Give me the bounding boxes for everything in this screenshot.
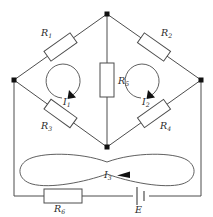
- resistor-r3: [44, 99, 77, 127]
- resistor-r6-body: [44, 189, 82, 203]
- node-top: [105, 12, 110, 17]
- label-r5: R5: [117, 75, 129, 87]
- label-i3: I3: [103, 169, 112, 181]
- node-left: [12, 78, 17, 83]
- i1-loop-arc: [46, 64, 80, 98]
- i1-arrow-head: [68, 90, 77, 99]
- i2-loop-arc: [125, 64, 159, 98]
- resistor-r5-body: [100, 63, 114, 97]
- source-wire-gap: [133, 191, 149, 201]
- mesh-current-loop-i1: [46, 64, 80, 99]
- label-r1: R1: [40, 27, 52, 39]
- label-r2: R2: [160, 27, 172, 39]
- resistor-r6: [44, 189, 82, 203]
- resistor-r3-body: [44, 99, 77, 127]
- i2-arrow-head: [147, 90, 156, 99]
- mesh-current-loop-i2: [125, 64, 159, 99]
- circuit-diagram: R1 R2 R3 R4 R5 R6 E I1 I2 I3: [0, 0, 213, 217]
- voltage-source-e: [133, 187, 149, 205]
- resistor-r5: [100, 63, 114, 97]
- label-r4: R4: [159, 120, 171, 132]
- label-r6: R6: [53, 203, 65, 215]
- label-source-e: E: [134, 204, 142, 215]
- label-r3: R3: [40, 120, 52, 132]
- node-bottom: [105, 145, 110, 150]
- circuit-schematic-canvas: R1 R2 R3 R4 R5 R6 E I1 I2 I3: [0, 0, 213, 217]
- i3-arrow-head: [117, 172, 130, 179]
- node-right: [199, 78, 204, 83]
